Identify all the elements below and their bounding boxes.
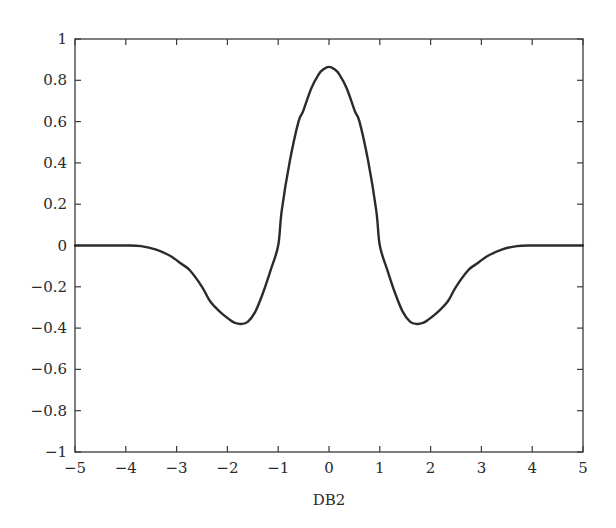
y-tick-label: 0.8 xyxy=(43,71,67,89)
x-tick-label: 3 xyxy=(477,459,487,477)
y-tick-label: −0.8 xyxy=(31,402,67,420)
x-tick-label: 4 xyxy=(527,459,537,477)
x-tick-label: −3 xyxy=(166,459,188,477)
x-axis-label: DB2 xyxy=(313,491,346,509)
x-tick-label: 5 xyxy=(578,459,588,477)
x-tick-label: 1 xyxy=(375,459,385,477)
x-tick-label: 0 xyxy=(324,459,334,477)
y-tick-label: 0.6 xyxy=(43,113,67,131)
x-tick-label: −5 xyxy=(64,459,86,477)
y-tick-label: −1 xyxy=(45,443,67,461)
y-tick-label: 0.2 xyxy=(43,195,67,213)
x-tick-label: −2 xyxy=(216,459,238,477)
x-tick-label: 2 xyxy=(426,459,436,477)
y-tick-label: −0.4 xyxy=(31,319,67,337)
y-tick-label: −0.2 xyxy=(31,278,67,296)
chart: −5−4−3−2−1012345 10.80.60.40.20−0.2−0.4−… xyxy=(0,0,616,528)
y-tick-label: −0.6 xyxy=(31,360,67,378)
x-tick-label: −1 xyxy=(267,459,289,477)
x-tick-label: −4 xyxy=(115,459,137,477)
y-tick-label: 1 xyxy=(57,30,67,48)
chart-background xyxy=(0,0,616,528)
y-tick-label: 0 xyxy=(57,237,67,255)
y-tick-label: 0.4 xyxy=(43,154,67,172)
